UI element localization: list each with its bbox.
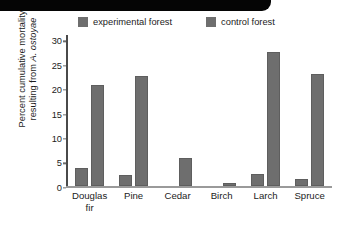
y-tick-label-5: 5 (36, 158, 62, 168)
y-axis-title-line1: Percent cumulative mortality (17, 11, 27, 128)
legend-swatch-experimental-forest (78, 17, 88, 27)
y-tick-mark-20 (63, 90, 67, 91)
bar-chart-figure: Percent cumulative mortality resulting f… (0, 0, 343, 228)
y-tick-label-30: 30 (36, 36, 62, 46)
bars (288, 35, 332, 186)
y-tick-mark-15 (63, 114, 67, 115)
y-tick-mark-0 (63, 187, 67, 188)
y-tick-mark-10 (63, 138, 67, 139)
legend-label-experimental-forest: experimental forest (93, 17, 172, 27)
bar-group-cedar (156, 35, 200, 186)
bar-douglas-fir-experimental (75, 168, 88, 187)
bar-birch-control (223, 183, 236, 187)
legend-item-experimental-forest: experimental forest (78, 17, 172, 27)
y-tick-label-25: 25 (36, 61, 62, 71)
bar-spruce-control (311, 74, 324, 186)
bar-group-douglas-fir (68, 35, 112, 186)
y-tick-mark-5 (63, 163, 67, 164)
y-tick-label-15: 15 (36, 110, 62, 120)
bars (200, 35, 244, 186)
bar-spruce-experimental (295, 179, 308, 186)
x-tick-label-birch: Birch (200, 190, 244, 214)
y-tick-label-0: 0 (36, 183, 62, 193)
legend-swatch-control-forest (206, 17, 216, 27)
y-axis-title: Percent cumulative mortality resulting f… (11, 0, 45, 143)
y-tick-mark-25 (63, 65, 67, 66)
x-axis-labels: DouglasfirPineCedarBirchLarchSpruce (68, 190, 332, 214)
y-tick-label-10: 10 (36, 134, 62, 144)
y-tick-label-20: 20 (36, 85, 62, 95)
bars (68, 35, 112, 186)
chart-legend: experimental forest control forest (78, 17, 275, 27)
bars (112, 35, 156, 186)
y-tick-mark-30 (63, 41, 67, 42)
bar-cedar-control (179, 158, 192, 186)
bar-group-birch (200, 35, 244, 186)
bar-groups (68, 35, 332, 186)
x-tick-label-spruce: Spruce (288, 190, 332, 214)
x-axis-line (66, 186, 332, 188)
x-tick-label-cedar: Cedar (156, 190, 200, 214)
x-tick-label-douglas-fir: Douglasfir (68, 190, 112, 214)
bar-pine-experimental (119, 175, 132, 186)
legend-label-control-forest: control forest (221, 17, 275, 27)
bars (244, 35, 288, 186)
bar-douglas-fir-control (91, 85, 104, 187)
bar-group-spruce (288, 35, 332, 186)
legend-item-control-forest: control forest (206, 17, 275, 27)
x-tick-label-pine: Pine (112, 190, 156, 214)
bars (156, 35, 200, 186)
bar-group-pine (112, 35, 156, 186)
bar-group-larch (244, 35, 288, 186)
plot-area: 051015202530 (66, 35, 332, 188)
bar-larch-control (267, 52, 280, 186)
bar-pine-control (135, 76, 148, 187)
x-tick-label-larch: Larch (244, 190, 288, 214)
bar-larch-experimental (251, 174, 264, 186)
